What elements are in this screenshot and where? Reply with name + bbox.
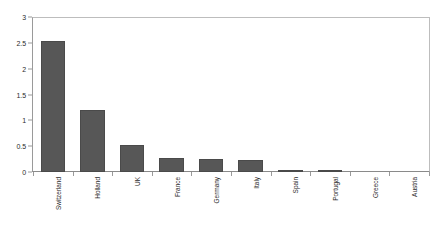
y-axis-tick-label: 1.5 <box>17 91 26 98</box>
y-axis: 00.511.522.53 <box>0 0 30 190</box>
y-axis-tickmark <box>28 68 32 69</box>
bar-slot <box>152 18 192 172</box>
y-axis-tickmark <box>28 120 32 121</box>
y-axis-tick-label: 3 <box>22 14 26 21</box>
y-axis-tick-label: 2.5 <box>17 39 26 46</box>
y-axis-tickmark <box>28 146 32 147</box>
x-axis-tick-label: Italy <box>254 177 261 189</box>
x-axis: SwitzerlandHollandUKFranceGermanyItalySp… <box>33 176 429 224</box>
bar <box>120 145 145 172</box>
y-axis-tickmark <box>28 94 32 95</box>
bar <box>80 110 105 172</box>
bar <box>199 159 224 172</box>
x-axis-tick-label: UK <box>135 177 142 186</box>
bars-layer <box>33 18 429 172</box>
x-axis-tick-label: Spain <box>294 177 301 193</box>
bar-slot <box>350 18 390 172</box>
bar-slot <box>389 18 429 172</box>
x-axis-tick-label: Holland <box>96 177 103 199</box>
x-axis-tickmark <box>429 172 430 176</box>
x-axis-tick-label: Austria <box>412 177 419 197</box>
bar-slot <box>231 18 271 172</box>
x-axis-tick-label: Greece <box>373 177 380 198</box>
x-axis-label-slot: Germany <box>191 176 231 224</box>
x-axis-label-slot: France <box>152 176 192 224</box>
bar <box>159 158 184 172</box>
x-axis-label-slot: Holland <box>73 176 113 224</box>
x-axis-tick-label: Portugal <box>333 177 340 201</box>
bar-slot <box>33 18 73 172</box>
x-axis-label-slot: Italy <box>231 176 271 224</box>
bar-slot <box>310 18 350 172</box>
x-axis-label-slot: Portugal <box>310 176 350 224</box>
x-axis-label-slot: Austria <box>389 176 429 224</box>
y-axis-tick-label: 0.5 <box>17 143 26 150</box>
bar-slot <box>73 18 113 172</box>
y-axis-tick-label: 0 <box>22 169 26 176</box>
y-axis-tickmark <box>28 42 32 43</box>
x-axis-label-slot: Spain <box>271 176 311 224</box>
bar-chart: 00.511.522.53 SwitzerlandHollandUKFrance… <box>0 0 444 225</box>
x-axis-label-slot: Greece <box>350 176 390 224</box>
y-axis-tick-label: 1 <box>22 117 26 124</box>
x-axis-tick-label: Switzerland <box>56 177 63 210</box>
bar-slot <box>112 18 152 172</box>
bar-slot <box>191 18 231 172</box>
y-axis-tick-label: 2 <box>22 65 26 72</box>
x-axis-tick-label: France <box>175 177 182 197</box>
bar <box>238 160 263 172</box>
bar-slot <box>271 18 311 172</box>
x-axis-label-slot: UK <box>112 176 152 224</box>
bar <box>41 41 66 172</box>
y-axis-tickmark <box>28 172 32 173</box>
y-axis-tickmark <box>28 17 32 18</box>
x-axis-tick-label: Germany <box>214 177 221 203</box>
x-axis-label-slot: Switzerland <box>33 176 73 224</box>
